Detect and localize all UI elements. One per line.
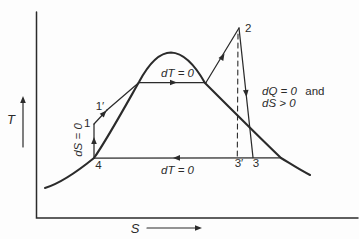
point-1-label: 1 xyxy=(84,117,90,129)
point-3-label: 3 xyxy=(253,157,259,169)
ts-diagram-figure: T S 1 1′ 2 3 3′ 4 dT = 0 dT = 0 dS = 0 d… xyxy=(0,0,359,239)
arrowhead-top-isotherm-icon xyxy=(170,80,177,86)
adiabat-label-line1-word: and xyxy=(305,85,324,97)
point-1prime-label: 1′ xyxy=(96,100,105,112)
dashed-2-3prime-line xyxy=(237,34,238,157)
process-1prime-dome-line xyxy=(107,83,139,111)
adiabat-label-line1-math: dQ = 0 xyxy=(262,85,297,97)
isentrope-label: dS = 0 xyxy=(72,123,84,157)
arrowhead-adiabat-2-3-icon xyxy=(243,90,249,98)
bottom-isotherm-label: dT = 0 xyxy=(161,164,195,176)
t-axis-label: T xyxy=(7,112,16,127)
arrowhead-4-1-icon xyxy=(91,137,97,144)
point-3prime-label: 3′ xyxy=(235,157,244,169)
point-4-label: 4 xyxy=(95,159,102,171)
arrowhead-bottom-isotherm-icon xyxy=(173,155,180,161)
axes-lines xyxy=(37,12,359,218)
adiabat-label-line2: dS > 0 xyxy=(262,97,296,109)
point-2-label: 2 xyxy=(245,22,251,34)
adiabat-label-line1: dQ = 0 and xyxy=(262,81,324,98)
top-isotherm-label: dT = 0 xyxy=(161,67,195,79)
s-axis-label: S xyxy=(131,221,140,236)
t-axis-arrowhead-icon xyxy=(20,96,26,103)
ts-diagram-canvas: T S 1 1′ 2 3 3′ 4 dT = 0 dT = 0 dS = 0 d… xyxy=(0,0,359,239)
s-axis-arrowhead-icon xyxy=(195,225,202,231)
